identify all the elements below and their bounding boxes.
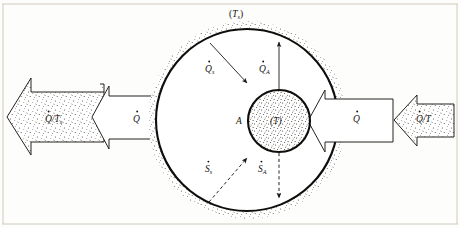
svg-text:(Ts): (Ts) [229,9,243,20]
qt-s-glyph: Q/T [45,114,61,124]
surroundings-temperature-label: (Ts) [229,9,243,20]
q-dot-a-sub: A [265,68,270,75]
q-left-glyph: Q [133,114,140,124]
overdot-sa [260,161,262,163]
overdot-q-left [136,111,138,113]
overdot-q-right [356,111,358,113]
figure-root: (Ts) Qs QA A (T) Ss [0,0,460,228]
overdot-qa [262,61,264,63]
overdot-ss [207,161,209,163]
qt-glyph: Q/T [416,114,432,124]
boundary-marker-label: A [235,116,242,126]
s-dot-a-sub: A [262,168,267,175]
system-temperature-label: (T) [270,116,282,127]
overdot-qs [208,61,210,63]
overdot-qt [419,111,421,113]
paren-close: ) [240,9,243,20]
thermodynamics-diagram: (Ts) Qs QA A (T) Ss [0,0,460,228]
overdot-qts [48,111,50,113]
q-right-glyph: Q [353,114,360,124]
